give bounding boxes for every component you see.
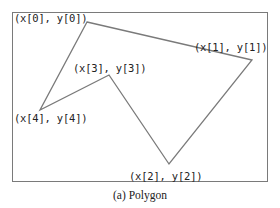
vertex-label-4: (x[4], y[4]) [14, 112, 87, 124]
vertex-label-2: (x[2], y[2]) [129, 170, 202, 182]
figure-caption: (a) Polygon [0, 189, 280, 201]
vertex-label-3: (x[3], y[3]) [73, 62, 146, 74]
vertex-label-1: (x[1], y[1]) [194, 41, 267, 53]
polygon-figure: (x[0], y[0]) (x[1], y[1]) (x[2], y[2]) (… [0, 0, 280, 208]
vertex-label-0: (x[0], y[0]) [14, 12, 87, 24]
